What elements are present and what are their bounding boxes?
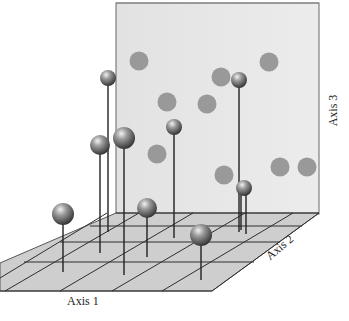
data-point-sphere xyxy=(231,72,247,88)
projection-dot xyxy=(212,68,231,87)
data-point-sphere xyxy=(236,180,252,196)
projection-dot xyxy=(158,93,177,112)
data-point-sphere xyxy=(190,224,212,246)
projection-dot xyxy=(215,166,234,185)
back-wall xyxy=(116,3,319,214)
projection-dot xyxy=(148,145,167,164)
projection-dot xyxy=(271,158,290,177)
3d-scatter-chart xyxy=(0,0,349,321)
projection-dot xyxy=(298,158,317,177)
projection-dot xyxy=(260,53,279,72)
axis-1-label: Axis 1 xyxy=(67,294,99,309)
axis-3-label: Axis 3 xyxy=(326,95,341,127)
data-point-sphere xyxy=(137,198,157,218)
data-point-sphere xyxy=(90,135,110,155)
projection-dot xyxy=(130,52,149,71)
projection-dot xyxy=(198,95,217,114)
data-point-sphere xyxy=(166,119,182,135)
data-point-sphere xyxy=(100,70,116,86)
data-point-sphere xyxy=(113,127,135,149)
data-point-sphere xyxy=(52,203,74,225)
